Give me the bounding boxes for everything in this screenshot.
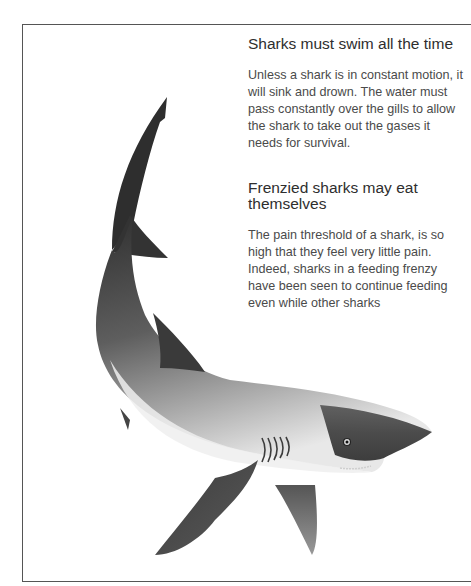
section-swim: Sharks must swim all the time Unless a s…: [248, 36, 463, 152]
pelvic-fin: [275, 485, 317, 555]
heading-swim: Sharks must swim all the time: [248, 36, 463, 52]
pectoral-fin: [155, 460, 258, 555]
heading-frenzy: Frenzied sharks may eat themselves: [248, 180, 463, 212]
anal-fin: [120, 408, 130, 430]
article-text: Sharks must swim all the time Unless a s…: [248, 36, 463, 340]
dorsal-fin: [153, 313, 205, 372]
tail-upper-lobe: [112, 97, 167, 250]
body-swim: Unless a shark is in constant motion, it…: [248, 67, 463, 152]
section-frenzy: Frenzied sharks may eat themselves The p…: [248, 180, 463, 312]
body-frenzy: The pain threshold of a shark, is so hig…: [248, 227, 463, 312]
